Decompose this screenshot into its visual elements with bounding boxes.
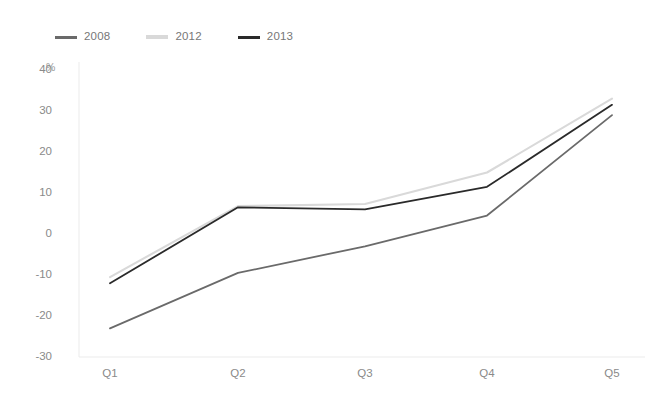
x-tick-label-Q4: Q4 (467, 368, 507, 380)
x-tick-label-Q5: Q5 (592, 368, 632, 380)
y-tick-label--20: -20 (18, 310, 52, 322)
y-tick-label-30: 30 (18, 105, 52, 117)
line-chart: 2008 2012 2013 % 403020100-10-20-30 Q1Q2… (0, 0, 655, 403)
series-line-2013[interactable] (110, 105, 612, 283)
x-tick-label-Q1: Q1 (90, 368, 130, 380)
y-tick-label-20: 20 (18, 146, 52, 158)
series-line-2012[interactable] (110, 99, 612, 277)
y-tick-label-10: 10 (18, 187, 52, 199)
x-tick-label-Q3: Q3 (345, 368, 385, 380)
x-tick-label-Q2: Q2 (218, 368, 258, 380)
y-tick-label-40: 40 (18, 64, 52, 76)
series-line-2008[interactable] (110, 115, 612, 328)
y-tick-label--10: -10 (18, 269, 52, 281)
plot-area (0, 0, 655, 403)
y-tick-label-0: 0 (18, 228, 52, 240)
y-tick-label--30: -30 (18, 351, 52, 363)
series-lines (110, 99, 612, 329)
